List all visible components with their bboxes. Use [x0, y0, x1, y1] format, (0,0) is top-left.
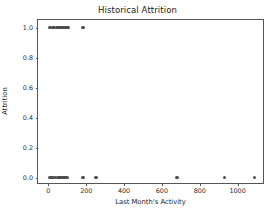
scatter-point — [81, 26, 85, 30]
x-tick-label: 400 — [118, 187, 130, 195]
x-tick-label: 800 — [194, 187, 206, 195]
chart-title: Historical Attrition — [0, 5, 275, 15]
x-tick-mark — [48, 183, 49, 186]
y-tick-label: 0.8 — [23, 54, 33, 62]
y-tick-mark — [36, 58, 39, 59]
y-tick-mark — [36, 88, 39, 89]
plot-area: 02004006008001000 0.00.20.40.60.81.0 — [37, 19, 264, 184]
y-tick-label: 1.0 — [23, 24, 33, 32]
y-tick-label: 0.2 — [23, 144, 33, 152]
chart-figure: Historical Attrition 02004006008001000 0… — [0, 0, 275, 219]
x-tick-label: 1000 — [229, 187, 245, 195]
x-tick-label: 0 — [46, 187, 50, 195]
scatter-points-layer — [38, 20, 263, 183]
y-axis-label: Attrition — [1, 87, 9, 115]
y-tick-label: 0.6 — [23, 84, 33, 92]
x-tick-mark — [200, 183, 201, 186]
x-axis-label: Last Month's Activity — [37, 198, 264, 206]
x-tick-mark — [162, 183, 163, 186]
x-tick-mark — [238, 183, 239, 186]
scatter-point — [66, 26, 70, 30]
scatter-point — [81, 176, 85, 180]
y-tick-label: 0.4 — [23, 114, 33, 122]
x-tick-mark — [86, 183, 87, 186]
x-tick-label: 200 — [80, 187, 92, 195]
scatter-point — [253, 176, 257, 180]
scatter-point — [223, 176, 227, 180]
scatter-point — [175, 176, 179, 180]
y-tick-mark — [36, 178, 39, 179]
y-tick-mark — [36, 28, 39, 29]
scatter-point — [94, 176, 98, 180]
y-tick-mark — [36, 118, 39, 119]
y-tick-mark — [36, 148, 39, 149]
y-tick-label: 0.0 — [23, 174, 33, 182]
scatter-point — [66, 176, 70, 180]
x-tick-label: 600 — [156, 187, 168, 195]
x-tick-mark — [124, 183, 125, 186]
